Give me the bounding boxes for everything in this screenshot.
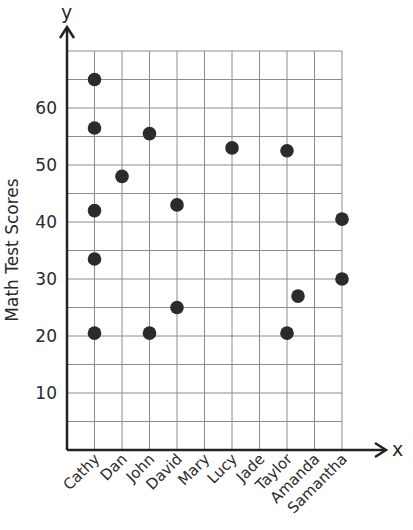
y-tick-label: 60 xyxy=(35,98,57,118)
y-tick-label: 30 xyxy=(35,269,57,289)
data-point xyxy=(280,326,294,340)
data-point xyxy=(280,144,294,158)
y-tick-label: 20 xyxy=(35,326,57,346)
data-point xyxy=(88,252,102,266)
y-tick-label: 50 xyxy=(35,155,57,175)
y-axis-title: Math Test Scores xyxy=(2,178,22,321)
data-point xyxy=(143,326,157,340)
data-point xyxy=(88,121,102,135)
x-category-labels: CathyDanJohnDavidMaryLucyJadeTaylorAmand… xyxy=(60,450,351,517)
y-tick-label: 40 xyxy=(35,212,57,232)
axes: y x Math Test Scores xyxy=(2,1,403,460)
x-category-label: Dan xyxy=(97,450,131,484)
data-points xyxy=(88,73,349,340)
grid-lines xyxy=(67,51,342,450)
scatter-chart: y x Math Test Scores 102030405060 CathyD… xyxy=(0,0,413,530)
x-axis-letter: x xyxy=(392,438,403,460)
data-point xyxy=(335,212,349,226)
data-point xyxy=(170,301,184,315)
data-point xyxy=(291,289,305,303)
x-category-label: Lucy xyxy=(204,450,241,487)
y-tick-label: 10 xyxy=(35,383,57,403)
data-point xyxy=(143,127,157,141)
data-point xyxy=(335,272,349,286)
data-point xyxy=(170,198,184,212)
data-point xyxy=(88,204,102,218)
data-point xyxy=(88,73,102,87)
data-point xyxy=(115,170,129,184)
data-point xyxy=(225,141,239,155)
data-point xyxy=(88,326,102,340)
y-tick-labels: 102030405060 xyxy=(35,98,57,403)
y-axis-letter: y xyxy=(61,1,72,23)
